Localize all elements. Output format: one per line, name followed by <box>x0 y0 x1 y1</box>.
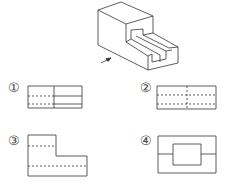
option-3-label: ③ <box>8 133 20 148</box>
isometric-block <box>98 2 178 70</box>
view-direction-arrow <box>101 58 111 63</box>
option-1-view <box>28 86 82 108</box>
option-4-view <box>158 136 216 173</box>
option-4-label: ④ <box>140 133 152 148</box>
option-3-view <box>28 135 87 176</box>
figure-canvas: ① ② ③ ④ <box>0 0 230 191</box>
option-2-view <box>157 86 216 109</box>
option-1-label: ① <box>8 80 20 95</box>
option-2-label: ② <box>140 80 152 95</box>
